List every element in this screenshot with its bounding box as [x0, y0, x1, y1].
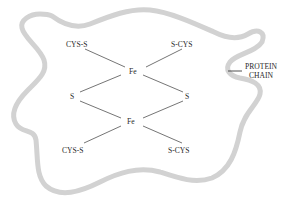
bond-cys-top-right-fe-top: [146, 49, 182, 67]
bond-fe-top-s-right: [143, 75, 183, 92]
bond-s-left-fe-bottom: [80, 101, 121, 118]
bond-cys-top-left-fe-top: [85, 49, 125, 67]
bond-fe-top-s-left: [80, 75, 121, 92]
label-cys-top-left: CYS-S: [66, 40, 88, 49]
label-fe-bottom: Fe: [127, 117, 135, 126]
iron-sulfur-cluster-diagram: CYS-S S-CYS Fe S S Fe CYS-S S-CYS PROTEI…: [0, 0, 296, 207]
label-cys-bottom-left: CYS-S: [62, 146, 84, 155]
label-protein: PROTEIN: [245, 62, 278, 71]
bond-fe-bottom-cys-bottom-right: [143, 126, 182, 143]
label-cys-bottom-right: S-CYS: [168, 146, 190, 155]
label-chain: CHAIN: [249, 71, 274, 80]
bond-fe-bottom-cys-bottom-left: [84, 126, 121, 143]
label-s-left: S: [70, 92, 74, 101]
protein-chain-outline: [14, 10, 263, 193]
label-cys-top-right: S-CYS: [171, 40, 193, 49]
bond-s-right-fe-bottom: [143, 101, 183, 118]
label-fe-top: Fe: [129, 67, 137, 76]
label-s-right: S: [185, 92, 189, 101]
